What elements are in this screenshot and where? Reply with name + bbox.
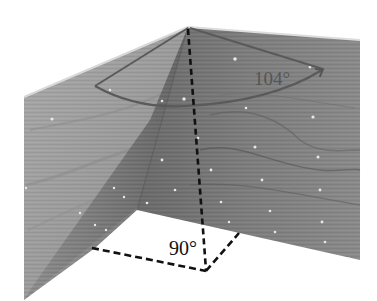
base-angle-label: 90° [169, 237, 197, 259]
figure-canvas: 104° 90° [0, 0, 377, 301]
corner-diagram: 104° 90° [0, 0, 377, 301]
top-angle-label: 104° [254, 68, 290, 89]
